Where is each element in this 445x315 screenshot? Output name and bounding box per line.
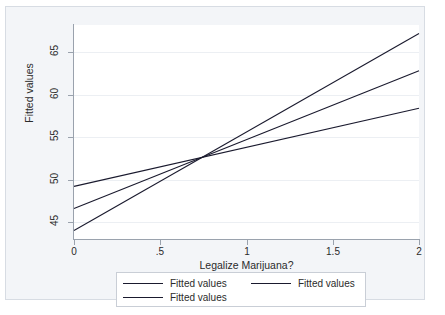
legend-line-key-icon: [123, 283, 163, 284]
legend-label-1: Fitted values: [170, 278, 227, 289]
legend-line-key-icon: [123, 297, 163, 298]
fitted-line-2: [74, 71, 419, 209]
x-tick-mark: [74, 240, 75, 245]
y-tick-mark: [68, 95, 73, 96]
x-tick-mark: [419, 240, 420, 245]
y-tick-mark: [68, 222, 73, 223]
y-tick-label: 45: [42, 215, 66, 229]
x-axis-title: Legalize Marijuana?: [74, 259, 419, 271]
legend-row: Fitted values Fitted values: [123, 276, 359, 290]
legend-item-1[interactable]: Fitted values: [123, 278, 251, 289]
y-tick-mark: [68, 52, 73, 53]
stata-graph-frame: 4550556065 0.511.52 Fitted values Legali…: [5, 6, 425, 300]
y-tick-mark: [68, 137, 73, 138]
x-tick-label: 1: [227, 246, 267, 257]
y-tick-label: 65: [42, 45, 66, 59]
y-tick-label-text: 45: [49, 209, 60, 233]
y-tick-label: 50: [42, 173, 66, 187]
y-tick-label-text: 65: [49, 39, 60, 63]
fitted-lines-group: [74, 25, 419, 239]
y-axis-title: Fitted values: [23, 48, 35, 138]
legend-line-key-icon: [251, 283, 291, 284]
legend-row: Fitted values: [123, 290, 359, 304]
x-tick-mark: [160, 240, 161, 245]
y-tick-mark: [68, 180, 73, 181]
legend: Fitted values Fitted values Fitted value…: [116, 272, 366, 307]
y-tick-label: 60: [42, 88, 66, 102]
legend-label-2: Fitted values: [298, 278, 355, 289]
x-tick-label: .5: [140, 246, 180, 257]
y-tick-label-text: 50: [49, 167, 60, 191]
x-tick-label: 2: [399, 246, 439, 257]
x-tick-mark: [333, 240, 334, 245]
plot-area: [74, 25, 419, 239]
x-tick-label: 0: [54, 246, 94, 257]
y-tick-label: 55: [42, 130, 66, 144]
x-tick-mark: [247, 240, 248, 245]
fitted-line-3: [74, 33, 419, 230]
screenshot-root: 4550556065 0.511.52 Fitted values Legali…: [0, 0, 445, 315]
legend-item-2[interactable]: Fitted values: [251, 278, 355, 289]
y-tick-label-text: 60: [49, 82, 60, 106]
x-tick-label: 1.5: [313, 246, 353, 257]
legend-item-3[interactable]: Fitted values: [123, 292, 251, 303]
y-tick-label-text: 55: [49, 124, 60, 148]
fitted-line-1: [74, 108, 419, 186]
legend-label-3: Fitted values: [170, 292, 227, 303]
